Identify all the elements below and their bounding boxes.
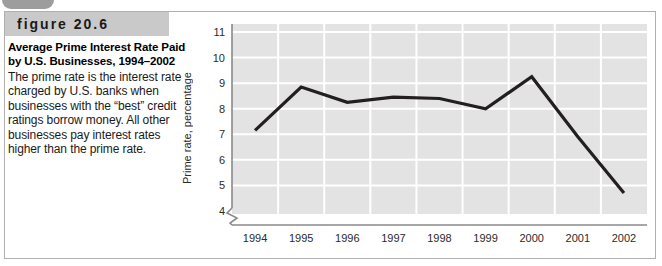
chart-svg: 4567891011 19941995199619971998199920002…: [200, 18, 652, 250]
caption-block: Average Prime Interest Rate Paid by U.S.…: [8, 41, 186, 156]
x-axis-tick-label: 1996: [335, 232, 359, 244]
caption-title: Average Prime Interest Rate Paid by U.S.…: [8, 41, 186, 68]
y-axis-title: Prime rate, percentage: [181, 52, 197, 204]
x-axis-tick-label: 2001: [566, 232, 590, 244]
y-axis-tick-label: 4: [219, 205, 225, 217]
x-axis-tick-label: 1997: [381, 232, 405, 244]
x-axis-tick-label: 1998: [427, 232, 451, 244]
y-axis-tick-label: 9: [219, 77, 225, 89]
x-axis-tick-label: 2002: [612, 232, 636, 244]
y-axis-tick-label: 11: [214, 26, 225, 38]
x-axis-ticks-group: 199419951996199719981999200020012002: [243, 232, 636, 244]
x-axis-tick-label: 2000: [519, 232, 543, 244]
caption-body: The prime rate is the interest rate char…: [8, 70, 186, 156]
y-axis-tick-label: 6: [219, 154, 225, 166]
x-axis-tick-label: 1994: [243, 232, 267, 244]
x-axis-tick-label: 1995: [289, 232, 313, 244]
y-axis-tick-label: 7: [219, 128, 225, 140]
line-chart: 4567891011 19941995199619971998199920002…: [200, 18, 652, 250]
corner-tab-icon: [2, 0, 54, 9]
y-axis-tick-label: 5: [219, 179, 225, 191]
y-axis-tick-label: 10: [213, 52, 225, 64]
y-axis-ticks-group: 4567891011: [213, 26, 225, 217]
y-axis-tick-label: 8: [219, 103, 225, 115]
figure-number-label: figure 20.6: [17, 16, 109, 32]
x-axis-tick-label: 1999: [473, 232, 497, 244]
figure-container: figure 20.6 Average Prime Interest Rate …: [0, 0, 662, 266]
